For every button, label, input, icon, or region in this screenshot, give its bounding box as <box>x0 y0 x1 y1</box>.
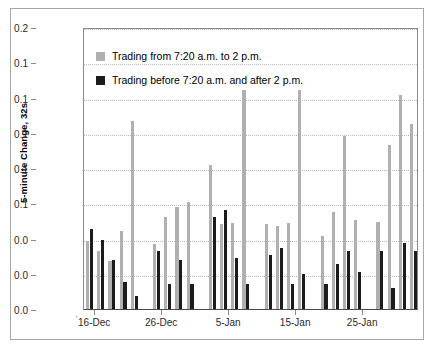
bar <box>101 240 104 309</box>
bar <box>298 90 301 309</box>
y-axis-tick-mark <box>31 63 36 64</box>
bar <box>347 251 350 309</box>
bar <box>153 244 156 309</box>
y-axis-tick-label: 0.1 <box>0 164 28 175</box>
bar <box>242 90 245 309</box>
y-axis-tick-label: 0.1 <box>0 93 28 104</box>
y-axis-tick-mark <box>31 169 36 170</box>
x-axis-tick-label: 25-Jan <box>347 317 378 328</box>
bar <box>265 224 268 309</box>
bar <box>213 217 216 309</box>
bar <box>220 224 223 309</box>
x-axis-tick-mark <box>228 310 229 315</box>
x-axis-tick-label: 16-Dec <box>78 317 110 328</box>
bar <box>321 236 324 309</box>
x-axis-tick-mark <box>362 310 363 315</box>
bar <box>190 284 193 309</box>
bar <box>403 243 406 309</box>
bar <box>97 251 100 309</box>
bar <box>358 272 361 309</box>
bar <box>269 255 272 309</box>
bar <box>175 207 178 309</box>
bar <box>287 223 290 309</box>
legend-swatch-icon <box>96 76 105 85</box>
y-axis-tick-mark <box>31 310 36 311</box>
legend-item: Trading from 7:20 a.m. to 2 p.m. <box>96 46 346 66</box>
bar <box>343 136 346 309</box>
bar <box>391 288 394 309</box>
bar <box>123 282 126 309</box>
y-axis-tick-label: 0.1 <box>0 58 28 69</box>
y-axis-tick-mark <box>31 275 36 276</box>
bar <box>112 260 115 309</box>
y-axis-tick-label: 0.2 <box>0 23 28 34</box>
bar <box>399 95 402 309</box>
legend-item: Trading before 7:20 a.m. and after 2 p.m… <box>96 70 346 90</box>
y-axis-tick-label: 0.0 <box>0 269 28 280</box>
bar <box>235 258 238 309</box>
bar <box>168 284 171 309</box>
bar <box>108 261 111 309</box>
bar <box>388 145 391 309</box>
y-axis-tick-label: 0.1 <box>0 128 28 139</box>
bar <box>157 251 160 309</box>
chart-legend: Trading from 7:20 a.m. to 2 p.m.Trading … <box>96 46 346 94</box>
bar-chart: 5-minute Change, 32s 0.20.10.10.10.10.10… <box>0 0 435 350</box>
bar <box>120 231 123 309</box>
x-axis-tick-mark <box>161 310 162 315</box>
bar <box>131 121 134 309</box>
bar <box>280 248 283 309</box>
legend-label: Trading from 7:20 a.m. to 2 p.m. <box>112 50 262 62</box>
y-axis-tick-labels: 0.20.10.10.10.10.10.00.00.0 <box>0 0 83 350</box>
bar <box>410 124 413 309</box>
bar <box>135 296 138 309</box>
bar <box>90 229 93 309</box>
bar <box>276 226 279 309</box>
y-axis-tick-mark <box>31 134 36 135</box>
bar <box>354 220 357 309</box>
bar <box>179 260 182 309</box>
x-axis-tick-label: 15-Jan <box>280 317 311 328</box>
bar <box>376 222 379 309</box>
x-axis-tick-mark <box>295 310 296 315</box>
x-axis-tick-label: 5-Jan <box>216 317 241 328</box>
bar <box>332 212 335 309</box>
bar <box>164 217 167 309</box>
x-axis-tick-label: 26-Dec <box>145 317 177 328</box>
bar <box>224 210 227 309</box>
legend-swatch-icon <box>96 52 105 61</box>
y-axis-tick-label: 0.0 <box>0 305 28 316</box>
y-axis-tick-mark <box>31 204 36 205</box>
y-axis-tick-mark <box>31 240 36 241</box>
y-axis-tick-label: 0.0 <box>0 234 28 245</box>
bar <box>231 223 234 309</box>
bar <box>246 284 249 309</box>
y-axis-tick-mark <box>31 28 36 29</box>
bar <box>414 251 417 309</box>
bar <box>86 241 89 309</box>
y-axis-tick-label: 0.1 <box>0 199 28 210</box>
bar <box>187 202 190 309</box>
x-axis-tick-labels: 16-Dec26-Dec5-Jan15-Jan25-Jan <box>83 310 418 340</box>
bar <box>209 165 212 309</box>
bar <box>302 274 305 309</box>
bar <box>324 284 327 309</box>
y-axis-tick-mark <box>31 99 36 100</box>
bar <box>336 264 339 309</box>
x-axis-tick-mark <box>94 310 95 315</box>
bar <box>380 251 383 309</box>
legend-label: Trading before 7:20 a.m. and after 2 p.m… <box>112 74 303 86</box>
bar <box>291 284 294 309</box>
